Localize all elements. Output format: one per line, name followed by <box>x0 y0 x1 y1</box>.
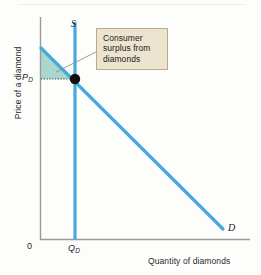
origin-label: 0 <box>27 241 32 251</box>
supply-curve-label: S <box>71 18 76 29</box>
x-tick-label-qd: QD <box>68 243 80 253</box>
demand-curve <box>41 48 223 229</box>
equilibrium-point <box>70 74 80 84</box>
y-tick-subscript: D <box>28 76 33 83</box>
demand-curve-label: D <box>228 222 235 233</box>
callout-line-2: surplus from <box>103 43 162 53</box>
y-tick-label-pd: PD <box>22 72 33 82</box>
x-axis-label: Quantity of diamonds <box>148 256 230 266</box>
x-tick-subscript: D <box>75 247 80 254</box>
callout-line-3: diamonds <box>103 54 162 64</box>
callout-line-1: Consumer <box>103 33 162 43</box>
x-tick-base: Q <box>68 243 75 253</box>
figure-container: Price of a diamond Quantity of diamonds … <box>0 0 261 275</box>
y-axis-label: Price of a diamond <box>13 29 23 137</box>
consumer-surplus-callout: Consumer surplus from diamonds <box>96 28 168 70</box>
